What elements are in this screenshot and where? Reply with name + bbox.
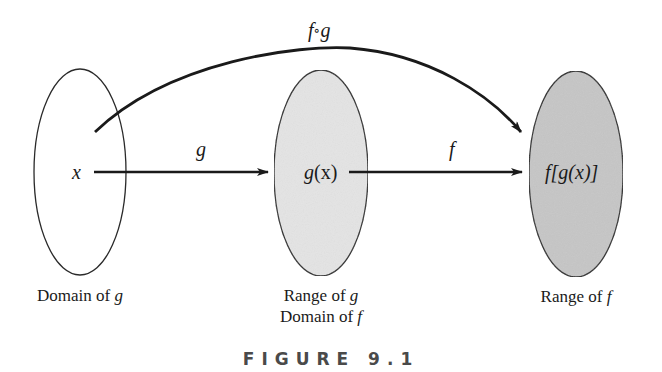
- compose-label: f∘g: [308, 19, 330, 42]
- arrow-f-label: f: [449, 138, 457, 161]
- composition-diagram: x g(x) f[g(x)] g f f∘g Domain of g Range…: [0, 0, 662, 372]
- element-x: x: [71, 161, 81, 183]
- element-g-of-x: g(x): [304, 161, 337, 184]
- domain-of-f-label: Domain of f: [280, 307, 364, 326]
- element-f-of-g-of-x: f[g(x)]: [545, 161, 598, 184]
- figure-caption: FIGURE 9.1: [243, 349, 419, 369]
- range-of-f-label: Range of f: [541, 287, 614, 306]
- domain-of-g-label: Domain of g: [37, 286, 123, 305]
- arrow-g-label: g: [196, 138, 206, 161]
- range-of-g-label: Range of g: [284, 286, 359, 305]
